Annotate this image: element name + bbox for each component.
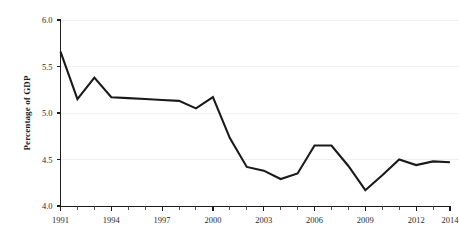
y-axis-tick-labels: 4.04.55.05.56.0 <box>42 15 53 211</box>
x-tick-label: 2014 <box>442 215 459 225</box>
x-tick-label: 1994 <box>103 215 121 225</box>
gridlines <box>61 20 459 160</box>
y-tick-label: 5.5 <box>42 62 53 72</box>
x-tick-label: 2012 <box>408 215 425 225</box>
series-line <box>61 52 451 191</box>
y-tick-label: 4.0 <box>42 201 53 211</box>
y-tick-label: 4.5 <box>42 155 53 165</box>
x-tick-label: 1991 <box>52 215 69 225</box>
x-tick-label: 2009 <box>357 215 374 225</box>
y-axis-title: Percentage of GDP <box>22 75 32 150</box>
x-tick-label: 2003 <box>255 215 272 225</box>
x-axis-tick-labels: 199119941997200020032006200920122014 <box>52 215 459 225</box>
x-tick-label: 2000 <box>204 215 221 225</box>
chart-container: 4.04.55.05.56.0 199119941997200020032006… <box>0 0 459 244</box>
data-series <box>61 52 451 191</box>
line-chart: 4.04.55.05.56.0 199119941997200020032006… <box>0 0 459 244</box>
x-tick-label: 1997 <box>154 215 171 225</box>
y-tick-label: 5.0 <box>42 108 53 118</box>
x-tick-label: 2006 <box>306 215 323 225</box>
y-tick-label: 6.0 <box>42 15 53 25</box>
